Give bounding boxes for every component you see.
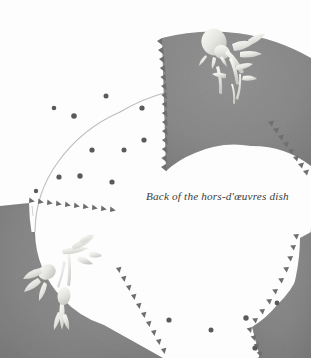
plate-illustration [0,0,311,358]
plate-dot [139,105,144,110]
plate-dot [209,328,214,333]
plate-dot [252,345,257,350]
plate-dot [166,317,171,322]
plate-dot [52,106,57,111]
plate-dot [71,113,77,119]
plate-dot [89,147,94,152]
plate-dot [275,301,280,306]
plate-dot [104,94,109,99]
plate-dot [243,315,248,320]
plate-dot [122,148,127,153]
plate-dot [109,179,114,184]
plate-dot [141,137,146,142]
plate-dot [56,174,61,179]
plate-dot [77,173,82,178]
hors-doeuvres-dish-figure: Back of the hors-d'œuvres dish [0,0,311,358]
plate-dot [34,189,38,193]
figure-caption: Back of the hors-d'œuvres dish [146,191,289,202]
